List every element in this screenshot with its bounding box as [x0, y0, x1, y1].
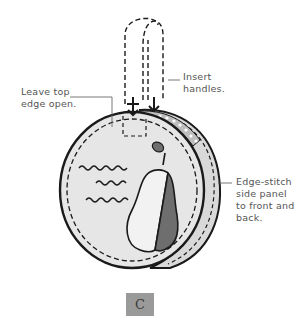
- annotation-leave-top-open: Leave top edge open.: [21, 86, 77, 110]
- step-badge: C: [126, 293, 154, 316]
- diagram-canvas: Insert handles. Leave top edge open. Edg…: [0, 0, 304, 320]
- annotation-edge-stitch: Edge-stitch side panel to front and back…: [236, 176, 294, 224]
- handles: [125, 18, 163, 104]
- annotation-insert-handles: Insert handles.: [183, 71, 225, 95]
- bag-illustration: [0, 0, 304, 320]
